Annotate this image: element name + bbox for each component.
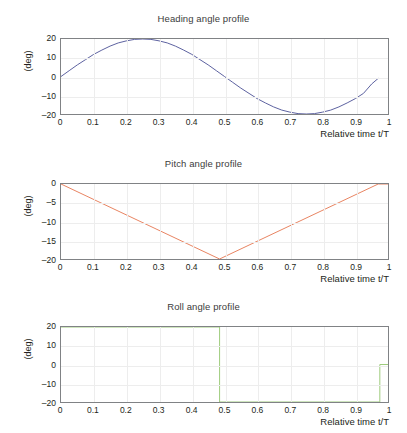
gridline-vertical <box>94 184 95 259</box>
y-tick-label: 0 <box>30 361 56 369</box>
x-tick-label: 0 <box>58 405 63 415</box>
chart-title-heading: Heading angle profile <box>0 13 407 24</box>
series-line-pitch <box>61 184 388 259</box>
plot-inner-pitch <box>61 184 388 259</box>
x-tick-label: 0.1 <box>87 262 99 272</box>
gridline-vertical <box>127 39 128 114</box>
gridline-vertical <box>94 327 95 402</box>
plot-area-heading <box>60 38 389 115</box>
series-line-roll <box>61 327 388 402</box>
x-tick-label: 0.8 <box>317 405 329 415</box>
gridline-vertical <box>357 39 358 114</box>
y-tick-label: –5 <box>30 198 56 206</box>
x-axis-label-roll: Relative time t/T <box>60 416 389 427</box>
x-tick-label: 0.2 <box>120 405 132 415</box>
chart-title-pitch: Pitch angle profile <box>0 158 407 169</box>
x-axis-label-heading: Relative time t/T <box>60 128 389 139</box>
x-tick-label: 1 <box>387 262 392 272</box>
x-tick-label: 0.3 <box>153 405 165 415</box>
gridline-vertical <box>291 39 292 114</box>
gridline-horizontal <box>61 366 388 367</box>
x-tick-label: 0.5 <box>219 117 231 127</box>
x-tick-label: 0.6 <box>251 405 263 415</box>
data-series-path <box>61 327 388 402</box>
x-tick-label: 0.7 <box>284 117 296 127</box>
x-axis-label-pitch: Relative time t/T <box>60 273 389 284</box>
chart-title-roll: Roll angle profile <box>0 301 407 312</box>
gridline-horizontal <box>61 203 388 204</box>
gridline-vertical <box>160 39 161 114</box>
y-tick-label: 10 <box>30 53 56 61</box>
x-tick-label: 0.8 <box>317 262 329 272</box>
gridline-vertical <box>193 39 194 114</box>
x-tick-label: 0.3 <box>153 117 165 127</box>
plot-area-roll <box>60 326 389 403</box>
gridline-vertical <box>291 327 292 402</box>
chart-panel-heading: Heading angle profile (deg) 20100–10–20 … <box>0 0 407 145</box>
y-tick-label: –20 <box>30 399 56 407</box>
x-tick-label: 0.7 <box>284 262 296 272</box>
x-tick-label: 0.3 <box>153 262 165 272</box>
gridline-vertical <box>94 39 95 114</box>
gridline-vertical <box>193 184 194 259</box>
gridline-vertical <box>160 184 161 259</box>
x-tick-label: 1 <box>387 117 392 127</box>
y-tick-label: 0 <box>30 73 56 81</box>
gridline-vertical <box>226 39 227 114</box>
data-series-path <box>61 184 388 259</box>
y-tick-label: –15 <box>30 237 56 245</box>
chart-panel-pitch: Pitch angle profile (deg) 0–5–10–15–20 0… <box>0 145 407 290</box>
y-tick-label: –10 <box>30 92 56 100</box>
series-line-heading <box>61 39 388 114</box>
gridline-vertical <box>160 327 161 402</box>
y-ticks-heading: 20100–10–20 <box>28 38 56 115</box>
gridline-vertical <box>291 184 292 259</box>
chart-panel-roll: Roll angle profile (deg) 20100–10–20 00.… <box>0 288 407 433</box>
x-tick-label: 0.1 <box>87 405 99 415</box>
gridline-vertical <box>357 327 358 402</box>
gridline-vertical <box>324 39 325 114</box>
y-tick-label: –20 <box>30 256 56 264</box>
gridline-vertical <box>258 327 259 402</box>
gridline-horizontal <box>61 223 388 224</box>
x-tick-label: 0.9 <box>350 117 362 127</box>
gridline-horizontal <box>61 242 388 243</box>
x-tick-label: 0.6 <box>251 262 263 272</box>
gridline-horizontal <box>61 385 388 386</box>
plot-inner-heading <box>61 39 388 114</box>
y-ticks-roll: 20100–10–20 <box>28 326 56 403</box>
x-tick-label: 0.4 <box>186 405 198 415</box>
x-tick-label: 0.4 <box>186 262 198 272</box>
y-tick-label: 10 <box>30 341 56 349</box>
x-tick-label: 0 <box>58 117 63 127</box>
y-tick-label: –20 <box>30 111 56 119</box>
x-tick-label: 1 <box>387 405 392 415</box>
gridline-vertical <box>258 184 259 259</box>
y-tick-label: 20 <box>30 34 56 42</box>
plot-inner-roll <box>61 327 388 402</box>
gridline-vertical <box>226 327 227 402</box>
gridline-vertical <box>324 184 325 259</box>
gridline-vertical <box>127 184 128 259</box>
gridline-vertical <box>258 39 259 114</box>
y-tick-label: –10 <box>30 380 56 388</box>
x-tick-label: 0.9 <box>350 405 362 415</box>
gridline-horizontal <box>61 97 388 98</box>
x-tick-label: 0.2 <box>120 262 132 272</box>
x-tick-label: 0.1 <box>87 117 99 127</box>
x-tick-label: 0 <box>58 262 63 272</box>
data-series-path <box>61 39 378 114</box>
gridline-vertical <box>226 184 227 259</box>
plot-area-pitch <box>60 183 389 260</box>
gridline-vertical <box>127 327 128 402</box>
x-tick-label: 0.8 <box>317 117 329 127</box>
x-tick-label: 0.4 <box>186 117 198 127</box>
gridline-vertical <box>193 327 194 402</box>
x-tick-label: 0.2 <box>120 117 132 127</box>
gridline-horizontal <box>61 346 388 347</box>
x-tick-label: 0.5 <box>219 262 231 272</box>
angle-profiles-figure: Heading angle profile (deg) 20100–10–20 … <box>0 0 407 433</box>
y-tick-label: 20 <box>30 322 56 330</box>
gridline-horizontal <box>61 58 388 59</box>
gridline-vertical <box>357 184 358 259</box>
